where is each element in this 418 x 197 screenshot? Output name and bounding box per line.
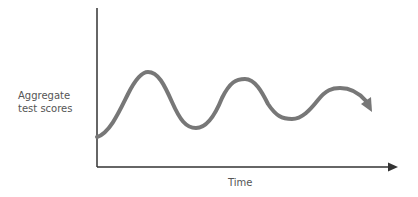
x-axis-arrow-icon — [388, 163, 398, 172]
y-axis-label: Aggregate test scores — [18, 89, 88, 115]
diagram-canvas: Aggregate test scores Time — [0, 0, 418, 197]
y-axis-label-line2: test scores — [18, 102, 88, 115]
y-axis-label-line1: Aggregate — [18, 89, 88, 102]
score-curve — [97, 72, 366, 137]
x-axis-label: Time — [228, 177, 252, 188]
